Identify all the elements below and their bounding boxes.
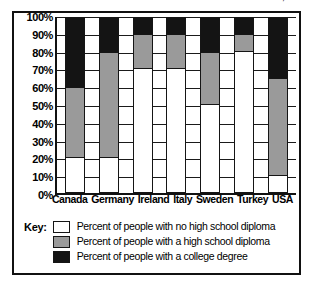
y-axis-tick-label: 10% [32, 172, 53, 183]
y-axis-tick-label: 60% [32, 83, 53, 94]
bar-ireland[interactable] [133, 17, 153, 193]
legend-item: Percent of people with a high school dip… [53, 234, 275, 249]
bar-canada[interactable] [65, 17, 85, 193]
y-axis-tick-label: 20% [32, 154, 53, 165]
legend-item: Percent of people with no high school di… [53, 219, 275, 234]
legend-entries: Percent of people with no high school di… [53, 219, 275, 264]
bar-segment-none[interactable] [133, 68, 153, 193]
y-axis-tick-label: 90% [32, 29, 53, 40]
y-axis-tick-label: 30% [32, 136, 53, 147]
bar-segment-college[interactable] [133, 17, 153, 35]
bar-italy[interactable] [166, 17, 186, 193]
bar-segment-highschool[interactable] [166, 34, 186, 70]
bar-segment-none[interactable] [166, 68, 186, 193]
bar-segment-highschool[interactable] [200, 52, 220, 105]
x-axis-tick-label: Canada [52, 193, 88, 205]
bar-segment-college[interactable] [99, 17, 119, 53]
plot-wrapper: 0%10%20%30%40%50%60%70%80%90%100% [17, 17, 298, 205]
y-axis-tick-label: 80% [32, 47, 53, 58]
x-axis-tick-label: Turkey [237, 193, 268, 205]
legend-item-label: Percent of people with a college degree [77, 250, 248, 263]
bar-segment-none[interactable] [99, 157, 119, 193]
bar-segment-college[interactable] [268, 17, 288, 79]
x-axis: CanadaGermanyIrelandItalySwedenTurkeyUSA [50, 193, 295, 209]
bar-segment-college[interactable] [200, 17, 220, 53]
legend-item-label: Percent of people with a high school dip… [77, 235, 270, 248]
bar-sweden[interactable] [200, 17, 220, 193]
legend-title: Key: [24, 219, 47, 234]
page-title: Educational Attainment in Selected Count… [118, 0, 303, 2]
bar-segment-college[interactable] [234, 17, 254, 35]
legend-item: Percent of people with a college degree [53, 249, 275, 264]
y-axis-tick-label: 40% [32, 118, 53, 129]
gray-swatch [53, 236, 70, 248]
bar-usa[interactable] [268, 17, 288, 193]
y-axis: 0%10%20%30%40%50%60%70%80%90%100% [17, 17, 55, 195]
y-axis-tick-label: 50% [32, 101, 53, 112]
chart-frame: 0%10%20%30%40%50%60%70%80%90%100% Canada… [12, 11, 301, 275]
x-axis-tick-label: Sweden [196, 193, 233, 205]
y-axis-tick-label: 70% [32, 65, 53, 76]
x-axis-tick-label: USA [272, 193, 293, 205]
x-axis-tick-label: Ireland [138, 193, 170, 205]
black-swatch [53, 251, 70, 263]
bar-segment-none[interactable] [65, 157, 85, 193]
bar-segment-college[interactable] [65, 17, 85, 88]
bar-turkey[interactable] [234, 17, 254, 193]
white-swatch [53, 221, 70, 233]
chart-title-strip: Educational Attainment in Selected Count… [0, 0, 314, 11]
bar-segment-highschool[interactable] [234, 34, 254, 52]
bar-group [57, 17, 296, 193]
bar-segment-highschool[interactable] [65, 87, 85, 158]
x-axis-tick-label: Italy [173, 193, 192, 205]
legend: Key: Percent of people with no high scho… [24, 219, 296, 264]
bar-segment-none[interactable] [234, 51, 254, 193]
bar-segment-highschool[interactable] [133, 34, 153, 70]
bar-segment-none[interactable] [200, 104, 220, 193]
x-axis-tick-label: Germany [91, 193, 134, 205]
bar-germany[interactable] [99, 17, 119, 193]
plot-area [55, 17, 296, 195]
legend-item-label: Percent of people with no high school di… [77, 220, 275, 233]
bar-segment-college[interactable] [166, 17, 186, 35]
y-axis-tick-label: 100% [26, 12, 53, 23]
bar-segment-none[interactable] [268, 175, 288, 193]
bar-segment-highschool[interactable] [99, 52, 119, 159]
bar-segment-highschool[interactable] [268, 78, 288, 176]
